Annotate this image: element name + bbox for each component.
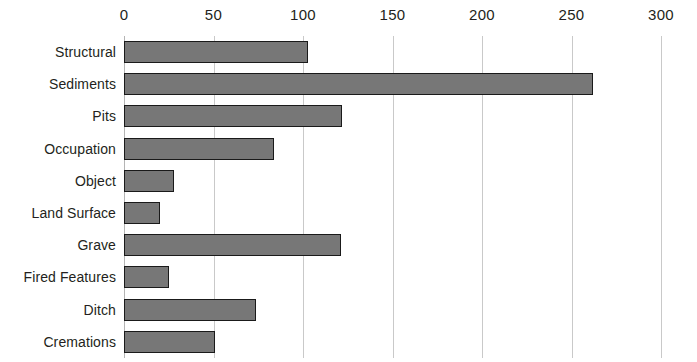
category-label: Fired Features <box>0 261 116 293</box>
bar <box>124 266 169 288</box>
bar <box>124 202 160 224</box>
bar <box>124 138 274 160</box>
x-tick-label: 0 <box>120 6 129 23</box>
plot-area: 050100150200250300 <box>124 36 661 358</box>
category-axis: Structural Sediments Pits Occupation Obj… <box>0 36 116 358</box>
category-label: Object <box>0 165 116 197</box>
bar-row <box>124 133 661 165</box>
bar-series <box>124 36 661 358</box>
bar-row <box>124 68 661 100</box>
x-tick-label: 200 <box>469 6 495 23</box>
bar-row <box>124 229 661 261</box>
category-label: Cremations <box>0 326 116 358</box>
bar <box>124 170 174 192</box>
bar <box>124 105 342 127</box>
x-tick-label: 50 <box>205 6 222 23</box>
bar-row <box>124 36 661 68</box>
x-tick-label: 300 <box>648 6 674 23</box>
bar-row <box>124 165 661 197</box>
gridline <box>661 36 662 358</box>
bar <box>124 299 256 321</box>
bar <box>124 41 308 63</box>
bar-row <box>124 326 661 358</box>
category-label: Ditch <box>0 294 116 326</box>
x-tick-label: 100 <box>290 6 316 23</box>
bar <box>124 73 593 95</box>
bar-row <box>124 100 661 132</box>
category-label: Occupation <box>0 133 116 165</box>
bar-row <box>124 197 661 229</box>
category-label: Pits <box>0 100 116 132</box>
bar <box>124 331 215 353</box>
x-tick-label: 250 <box>559 6 585 23</box>
x-tick-label: 150 <box>380 6 406 23</box>
category-label: Grave <box>0 229 116 261</box>
category-label: Land Surface <box>0 197 116 229</box>
bar-row <box>124 261 661 293</box>
bar-chart: Structural Sediments Pits Occupation Obj… <box>0 0 697 362</box>
bar-row <box>124 294 661 326</box>
bar <box>124 234 341 256</box>
category-label: Sediments <box>0 68 116 100</box>
category-label: Structural <box>0 36 116 68</box>
